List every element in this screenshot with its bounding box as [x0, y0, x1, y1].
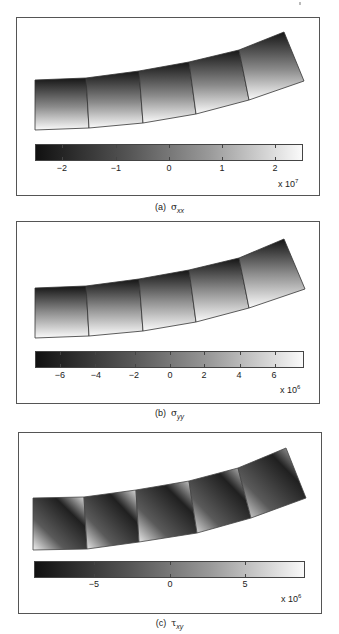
colorbar-tick-label: −1	[111, 163, 121, 173]
caption-b: (b)σyy	[0, 408, 339, 420]
panel-sigma-xx: −2 −1 0 1 2 x 107	[16, 17, 320, 196]
caption-c: (c)τxy	[0, 618, 339, 630]
colorbar-sigma-xx	[35, 144, 303, 161]
colorbar-tick-label: 0	[167, 579, 172, 589]
colorbar-tick-label: −2	[129, 370, 139, 380]
colorbar-tick-label: −2	[57, 163, 67, 173]
panel-sigma-yy: −6 −4 −2 0 2 4 6 x 106	[16, 221, 320, 404]
colorbar-tick-label: 1	[219, 163, 224, 173]
colorbar-sigma-yy	[35, 351, 304, 368]
colorbar-tick-label: 2	[201, 370, 206, 380]
colorbar-scale-label: x 106	[281, 593, 301, 604]
colorbar-tick-label: −4	[91, 370, 101, 380]
colorbar-tick-label: 2	[272, 163, 277, 173]
colorbar-scale-label: x 106	[280, 384, 300, 395]
colorbar-tick-label: 0	[167, 370, 172, 380]
colorbar-tick-label: 0	[166, 163, 171, 173]
colorbar-tick-label: −5	[89, 579, 99, 589]
colorbar-tau-xy	[34, 561, 305, 578]
colorbar-tick-label: 6	[271, 370, 276, 380]
colorbar-tick-label: −6	[55, 370, 65, 380]
colorbar-tick-label: 5	[242, 579, 247, 589]
caption-a: (a)σxx	[0, 202, 339, 214]
panel-tau-xy: −5 0 5 x 106	[18, 432, 322, 614]
scan-speck	[299, 2, 301, 5]
colorbar-tick-label: 4	[236, 370, 241, 380]
colorbar-scale-label: x 107	[278, 178, 298, 189]
